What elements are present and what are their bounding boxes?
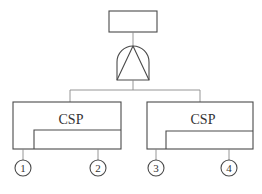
gate-icon [117,46,149,80]
basic-event-3: 3 [148,160,164,176]
event-number: 4 [226,162,232,174]
event-number: 2 [95,162,101,174]
csp-block-right: CSP [147,102,253,149]
csp-label: CSP [191,112,216,127]
basic-event-4: 4 [221,160,237,176]
event-number: 1 [20,162,26,174]
fault-tree-diagram: CSP 1 2 CSP 3 4 [0,0,262,194]
basic-event-2: 2 [90,160,106,176]
top-event-box [109,11,157,32]
csp-block-left: CSP [13,102,121,149]
event-number: 3 [153,162,159,174]
csp-label: CSP [59,112,84,127]
basic-event-1: 1 [15,160,31,176]
